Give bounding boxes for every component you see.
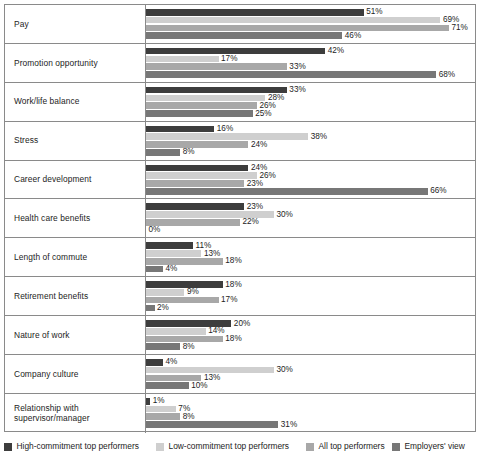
category-label-cell: Pay xyxy=(5,5,146,43)
category-label-cell: Company culture xyxy=(5,355,146,393)
bar-value-label: 2% xyxy=(155,303,169,313)
bar xyxy=(146,250,201,257)
bar xyxy=(146,242,193,249)
chart-category-row: Health care benefits23%30%22%0% xyxy=(5,199,475,238)
category-label: Pay xyxy=(14,19,29,30)
category-label: Nature of work xyxy=(14,330,70,341)
bar xyxy=(146,359,163,366)
category-label-cell: Retirement benefits xyxy=(5,277,146,315)
bar-line: 4% xyxy=(146,359,475,366)
bar-line: 18% xyxy=(146,336,475,343)
legend-label: High-commitment top performers xyxy=(17,441,139,452)
bar-group: 23%30%22%0% xyxy=(146,199,475,237)
bar xyxy=(146,165,248,172)
bar-line: 33% xyxy=(146,63,475,70)
bar-value-label: 30% xyxy=(274,210,293,220)
bar-line: 42% xyxy=(146,48,475,55)
chart-legend: High-commitment top performersLow-commit… xyxy=(4,441,476,452)
bar xyxy=(146,17,440,24)
category-label: Health care benefits xyxy=(14,213,90,224)
bar xyxy=(146,328,206,335)
bar-line: 2% xyxy=(146,305,475,312)
bar-value-label: 31% xyxy=(278,420,297,430)
chart-category-row: Career development24%26%23%66% xyxy=(5,161,475,200)
bar-line: 22% xyxy=(146,219,475,226)
bar-value-label: 71% xyxy=(449,23,468,33)
bar-value-label: 17% xyxy=(219,54,238,64)
legend-swatch-icon xyxy=(306,443,314,451)
bar xyxy=(146,406,176,413)
category-label: Relationship with supervisor/manager xyxy=(14,403,141,424)
bar-line: 30% xyxy=(146,211,475,218)
bar-line: 1% xyxy=(146,398,475,405)
category-label-cell: Relationship with supervisor/manager xyxy=(5,394,146,433)
bar-line: 66% xyxy=(146,188,475,195)
chart-category-row: Company culture4%30%13%10% xyxy=(5,355,475,394)
bar-value-label: 38% xyxy=(308,132,327,142)
bar-line: 20% xyxy=(146,320,475,327)
category-label: Stress xyxy=(14,135,38,146)
bar-line: 11% xyxy=(146,242,475,249)
category-label-cell: Career development xyxy=(5,161,146,199)
bar xyxy=(146,413,180,420)
chart-category-row: Promotion opportunity42%17%33%68% xyxy=(5,44,475,83)
bar-line: 10% xyxy=(146,382,475,389)
bar-value-label: 22% xyxy=(240,217,259,227)
bar xyxy=(146,126,214,133)
bar-line: 23% xyxy=(146,180,475,187)
bar-value-label: 23% xyxy=(244,179,263,189)
bar-group: 4%30%13%10% xyxy=(146,355,475,393)
bar-group: 42%17%33%68% xyxy=(146,44,475,82)
bar xyxy=(146,56,219,63)
bar-line: 68% xyxy=(146,71,475,78)
bar-line: 7% xyxy=(146,406,475,413)
bar-group: 18%9%17%2% xyxy=(146,277,475,315)
bar xyxy=(146,266,163,273)
chart-category-row: Stress16%38%24%8% xyxy=(5,122,475,161)
bar-line: 0% xyxy=(146,227,475,234)
bar-value-label: 8% xyxy=(180,342,194,352)
chart-category-row: Relationship with supervisor/manager1%7%… xyxy=(5,394,475,433)
bar-value-label: 33% xyxy=(287,62,306,72)
bar-line: 17% xyxy=(146,297,475,304)
bar-value-label: 18% xyxy=(223,280,242,290)
bar xyxy=(146,32,342,39)
bar-line: 26% xyxy=(146,172,475,179)
bar-line: 33% xyxy=(146,87,475,94)
bar-line: 28% xyxy=(146,95,475,102)
bar-value-label: 4% xyxy=(163,357,177,367)
bar-value-label: 30% xyxy=(274,365,293,375)
bar-group: 11%13%18%4% xyxy=(146,238,475,276)
category-label-cell: Work/life balance xyxy=(5,83,146,121)
bar-value-label: 66% xyxy=(428,186,447,196)
bar-value-label: 20% xyxy=(231,319,250,329)
bar xyxy=(146,9,364,16)
category-label-cell: Health care benefits xyxy=(5,199,146,237)
bar xyxy=(146,172,257,179)
bar-line: 8% xyxy=(146,343,475,350)
bar-value-label: 25% xyxy=(253,109,272,119)
bar-group: 16%38%24%8% xyxy=(146,122,475,160)
legend-label: Low-commitment top performers xyxy=(169,441,290,452)
bar-value-label: 8% xyxy=(180,412,194,422)
bar-value-label: 23% xyxy=(244,202,263,212)
bar-value-label: 13% xyxy=(201,249,220,259)
category-label: Company culture xyxy=(14,369,79,380)
bar-value-label: 68% xyxy=(436,70,455,80)
grouped-bar-chart: Pay51%69%71%46%Promotion opportunity42%1… xyxy=(0,0,480,469)
bar-line: 8% xyxy=(146,149,475,156)
bar xyxy=(146,25,449,32)
bar-line: 31% xyxy=(146,421,475,428)
bar-line: 14% xyxy=(146,328,475,335)
bar xyxy=(146,149,180,156)
bar-value-label: 0% xyxy=(146,225,160,235)
bar xyxy=(146,133,308,140)
legend-item: High-commitment top performers xyxy=(4,441,156,452)
bar-line: 8% xyxy=(146,413,475,420)
legend-item: Employers' view xyxy=(392,441,476,452)
bar-group: 24%26%23%66% xyxy=(146,161,475,199)
bar-value-label: 18% xyxy=(223,256,242,266)
bar xyxy=(146,63,287,70)
category-label: Career development xyxy=(14,174,91,185)
bar-value-label: 33% xyxy=(287,85,306,95)
